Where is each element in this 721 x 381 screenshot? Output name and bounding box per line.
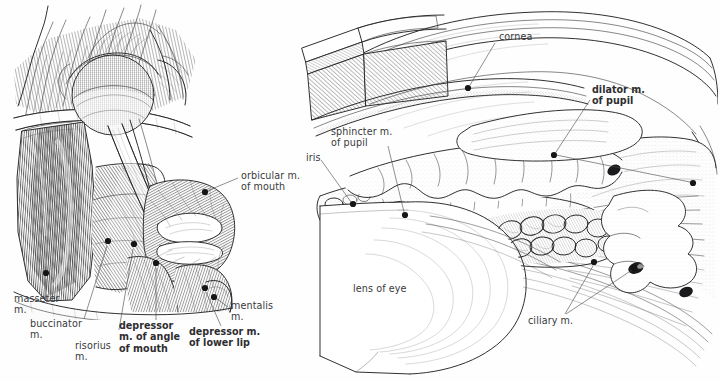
label-cornea: cornea: [499, 31, 532, 42]
label-ciliary-muscle: ciliary m.: [528, 315, 573, 326]
label-masseter: masseter m.: [14, 293, 60, 316]
label-dilator-of-pupil: dilator m. of pupil: [592, 84, 645, 107]
label-risorius: risorius m.: [75, 340, 111, 363]
label-buccinator: buccinator m.: [30, 318, 82, 341]
label-depressor-angle-of-mouth: depressor m. of angle of mouth: [119, 320, 180, 354]
label-iris: iris: [306, 152, 321, 163]
label-orbicular-of-mouth: orbicular m. of mouth: [241, 170, 300, 193]
label-sphincter-of-pupil: sphincter m. of pupil: [331, 126, 392, 149]
facial-muscles-illustration: [0, 0, 280, 320]
anatomy-plate: masseter m. buccinator m. risorius m. de…: [0, 0, 721, 381]
eye-section-illustration: [258, 0, 718, 381]
label-lens-of-eye: lens of eye: [353, 283, 407, 294]
label-depressor-lower-lip: depressor m. of lower lip: [189, 326, 260, 349]
label-mentalis: mentalis m.: [231, 300, 273, 323]
